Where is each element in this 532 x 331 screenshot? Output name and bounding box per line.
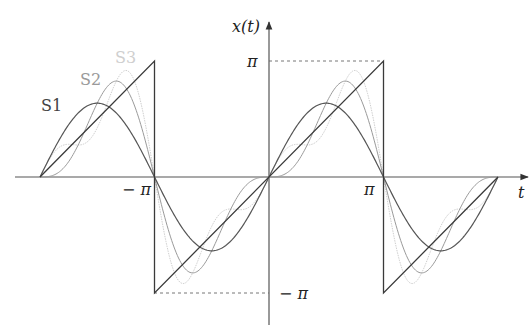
series-label-s3: S3 — [115, 48, 136, 67]
fourier-sawtooth-chart: x(t) t π − π − π π S1 S2 S3 — [0, 0, 532, 331]
series-label-s1: S1 — [41, 96, 62, 115]
x-tick-neg-pi: − π — [122, 180, 151, 199]
y-tick-pi: π — [246, 52, 258, 71]
y-tick-neg-pi: − π — [279, 284, 308, 303]
x-axis-label: t — [518, 183, 525, 202]
y-axis-label: x(t) — [232, 17, 260, 36]
series-label-s2: S2 — [80, 70, 101, 89]
x-tick-pi: π — [363, 180, 375, 199]
